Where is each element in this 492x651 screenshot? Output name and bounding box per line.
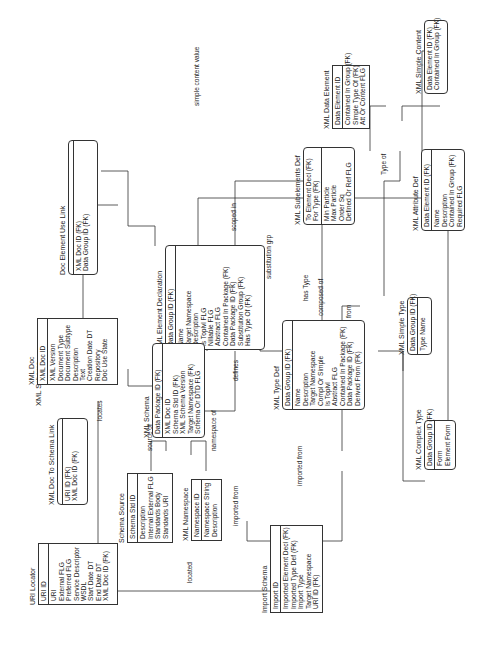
entity-title: XML Data Element <box>323 71 331 130</box>
entity-import-schema[interactable]: Import Schema Import ID Imported Element… <box>270 525 323 613</box>
rel-label-namespace-of: namespace of <box>210 410 217 451</box>
pk-field: Data Group ID (FK) <box>167 249 174 346</box>
attr-field: Derived From (FK) <box>354 324 361 406</box>
rel-label-located: located <box>186 562 193 583</box>
attr-field: Standards Body <box>154 477 161 539</box>
pk-field: XML Doc ID <box>39 322 46 381</box>
entity-xml-simple-content[interactable]: XML Simple Content Data Element ID (FK) … <box>424 20 448 94</box>
entity-uri-locator[interactable]: URI Locator URI ID URI External FLG Pref… <box>38 543 118 605</box>
pk-field: URI ID <box>40 547 47 601</box>
attr-field: Data Package ID (FK) <box>229 249 236 346</box>
attr-field: Description <box>302 324 309 406</box>
attr-field: Contained In Group (FK) <box>448 153 455 227</box>
entity-xml-subelements-def[interactable]: XML Subelements Def To Element Decl (FK)… <box>303 147 355 225</box>
attr-field: Defined Or Ref FLG <box>345 151 352 221</box>
attr-field: Description <box>211 483 218 537</box>
attr-field: XML Doc ID (FK) <box>71 422 78 501</box>
entity-xml-element-declaration[interactable]: XML Element Declaration Data Group ID (F… <box>165 245 265 350</box>
attr-field: Target Namespace <box>309 324 316 406</box>
attr-field: Description <box>139 477 146 539</box>
attr-field: Required FLG <box>456 153 463 227</box>
entity-xml-schema[interactable]: XML Schema Data Package ID (FK) XML Doc … <box>152 343 205 438</box>
er-diagram-canvas: XML Schema simple content value scoped i… <box>0 0 492 651</box>
entity-xml-namespace[interactable]: XML Namespace Namespace ID Namespace Str… <box>191 479 222 541</box>
pk-field: Import ID <box>272 529 279 609</box>
rel-label-simple-content-value: simple content value <box>193 47 200 106</box>
entity-xml-doc-to-schema-link[interactable]: XML Doc To Schema Link URI ID (FK) XML D… <box>57 418 88 505</box>
attr-field: Contained In Group (FK) <box>344 69 351 125</box>
attr-field: Contained In Package (FK) <box>339 324 346 406</box>
attr-field: External FLG <box>58 547 65 601</box>
rel-label-locates: locates <box>96 400 103 421</box>
attr-field: URI ID (FK) <box>312 529 319 609</box>
attr-field: Nillable FLG <box>207 249 214 346</box>
attr-field: Import Type <box>297 529 304 609</box>
rel-label-substitution-grp: substitution grp <box>265 235 272 279</box>
attr-field: Att Or Content FLG <box>359 69 366 125</box>
attr-field: Form <box>436 424 443 466</box>
pk-field: Namespace ID <box>193 483 200 537</box>
attr-field: Start Date DT <box>87 547 94 601</box>
attr-field: Imported Element Decl (FK) <box>282 529 289 609</box>
attr-field: Description <box>441 153 448 227</box>
entity-xml-attribute-def[interactable]: XML Attribute Def Data Element ID (FK) N… <box>421 149 465 231</box>
attr-field: Compl Or Simple <box>317 324 324 406</box>
entity-title: XML Doc To Schema Link <box>48 425 56 505</box>
attr-field: Element Form <box>444 424 451 466</box>
entity-xml-doc[interactable]: XML Doc XML Doc ID XML Version Document … <box>37 318 118 385</box>
attr-field: Simple Type Of (FK) <box>352 69 359 125</box>
attr-field: Abstract FLG <box>331 324 338 406</box>
attr-field: URI ID (FK) <box>64 422 71 501</box>
attr-field: Abstract FLG <box>214 249 221 346</box>
rel-label-has-type: has Type <box>302 275 309 301</box>
entity-xml-simple-type[interactable]: XML Simple Type Data Group ID (FK) Type … <box>407 297 432 355</box>
attr-field: Min Particle <box>323 151 330 221</box>
rel-label-type-of: Type of <box>380 154 387 175</box>
entity-schema-source[interactable]: Schema Source Schema Std ID Description … <box>127 473 173 543</box>
attr-field: XML Doc ID <box>164 347 171 434</box>
rel-label-composed-of: composed of <box>317 279 324 316</box>
attr-field: Internal External FLG <box>147 477 154 539</box>
entity-title: XML Doc <box>28 356 36 385</box>
attr-field: Is Toplvl <box>324 324 331 406</box>
entity-title: XML Attribute Def <box>412 176 420 231</box>
entity-title: XML Namespace <box>182 488 190 541</box>
pk-field: Data Group ID (FK) <box>426 424 433 466</box>
attr-field: Preferred FLG <box>65 547 72 601</box>
attr-field: Data Group ID (FK) <box>82 144 89 271</box>
entity-title: Import Schema <box>261 566 269 613</box>
rel-label-defines-type: defines <box>232 360 239 381</box>
entity-xml-complex-type[interactable]: XML Complex Type Data Group ID (FK) Form… <box>424 420 456 470</box>
entity-doc-element-use-link[interactable]: Doc Element Use Link XML Doc ID (FK) Dat… <box>68 140 98 275</box>
attr-field: Document Type <box>57 322 64 381</box>
entity-xml-data-element[interactable]: XML Data Element Data Element ID Contain… <box>332 65 370 129</box>
entity-title: XML Schema <box>143 396 151 438</box>
entity-title: XML Complex Type <box>415 409 423 470</box>
entity-title: Schema Source <box>118 493 126 543</box>
attr-field: Document Subtype <box>64 322 71 381</box>
attr-field: Target Namespace (FK) <box>187 347 194 434</box>
entity-title: XML Simple Type <box>398 301 406 355</box>
attr-field: Max Particle <box>330 151 337 221</box>
attr-field: Data Element ID (FK) <box>426 24 433 90</box>
attr-field: Creation Date DT <box>86 322 93 381</box>
attr-field: Name <box>294 324 301 406</box>
attr-field: Repository <box>94 322 101 381</box>
attr-field: XML Schema Version <box>179 347 186 434</box>
attr-field: Schema Std ID (FK) <box>172 347 179 434</box>
rel-label-imported-from-right: imported from <box>296 446 303 486</box>
attr-field: Has Type Of (FK) <box>244 249 251 346</box>
attr-field: Name <box>177 249 184 346</box>
pk-field: Data Element ID (FK) <box>423 153 430 227</box>
pk-field: To Element Decl (FK) <box>305 151 312 221</box>
attr-field: Contained In Package (FK) <box>222 249 229 346</box>
attr-field: Target Namespace <box>185 249 192 346</box>
entity-title: XML Subelements Def <box>294 155 302 225</box>
pk-field: For Type (FK) <box>312 151 319 221</box>
entity-xml-type-def[interactable]: XML Type Def Data Group ID (FK) Name Des… <box>282 320 365 410</box>
pk-field: Data Package ID (FK) <box>154 347 161 434</box>
pk-field: Schema Std ID <box>129 477 136 539</box>
attr-field: Description <box>72 322 79 381</box>
attr-field: Type Name <box>419 301 426 351</box>
attr-field: Order Sq <box>338 151 345 221</box>
